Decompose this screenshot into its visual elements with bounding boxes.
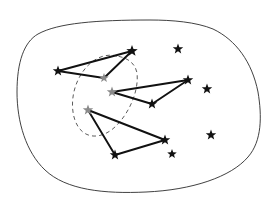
edge-upper-left-to-mid <box>58 71 104 78</box>
outer-region-boundary <box>17 20 260 192</box>
star-upper-left <box>53 66 63 76</box>
star-lower-right <box>160 135 170 145</box>
edge-lower-bottom-to-right <box>115 140 165 155</box>
star-middle-bottom <box>147 99 157 109</box>
star-isolated-right <box>202 84 212 94</box>
star-lower-left <box>83 105 93 115</box>
edge-middle-left-to-right <box>112 80 188 92</box>
figure-canvas <box>0 0 277 204</box>
star-isolated-top-right <box>173 44 183 54</box>
star-lower-bottom <box>110 150 120 160</box>
star-middle-left <box>107 87 117 97</box>
cluster-boundary-group <box>72 55 137 136</box>
star-isolated-lower-right <box>206 130 216 140</box>
star-field-figure <box>0 0 277 204</box>
edge-lower-left-to-bottom <box>88 110 115 155</box>
edge-middle-left-to-bottom <box>112 92 152 104</box>
dashed-subcluster-boundary <box>72 55 137 136</box>
region-boundary-group <box>17 20 260 192</box>
star-layer <box>53 44 216 160</box>
star-isolated-bottom-middle <box>167 149 177 158</box>
